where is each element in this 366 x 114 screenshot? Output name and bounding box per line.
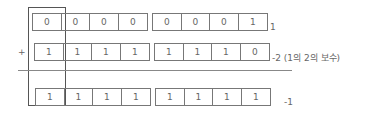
row-operand-1: 0 0 0 0 0 0 0 1: [32, 13, 268, 31]
bit-cell: 1: [93, 89, 122, 105]
bit-cell: 1: [35, 44, 64, 60]
row-result: 1 1 1 1 1 1 1 1: [35, 88, 271, 106]
bit-cell: 1: [121, 44, 150, 60]
bit-cell: 1: [184, 44, 213, 60]
bit-cell: 1: [155, 44, 184, 60]
bit-cell: 0: [182, 14, 211, 30]
row-label-operand-2: -2 (1의 2의 보수): [272, 51, 340, 64]
bit-cell: 1: [92, 44, 121, 60]
nibble-low: 1 1 1 0: [154, 43, 270, 61]
bit-cell: 0: [90, 14, 119, 30]
bit-cell: 1: [242, 89, 271, 105]
bit-cell: 1: [212, 44, 241, 60]
bit-cell: 0: [119, 14, 148, 30]
row-label-operand-1: 1: [270, 22, 276, 32]
nibble-low: 0 0 0 1: [152, 13, 268, 31]
nibble-high: 1 1 1 1: [34, 43, 150, 61]
bit-cell: 0: [33, 14, 62, 30]
bit-cell: 0: [62, 14, 91, 30]
bit-cell: 1: [36, 89, 65, 105]
bit-cell: 0: [210, 14, 239, 30]
sum-separator-line: [18, 70, 292, 71]
nibble-high: 1 1 1 1: [35, 88, 151, 106]
bit-cell: 1: [65, 89, 94, 105]
row-operand-2: 1 1 1 1 1 1 1 0: [34, 43, 270, 61]
nibble-high: 0 0 0 0: [32, 13, 148, 31]
nibble-low: 1 1 1 1: [155, 88, 271, 106]
bit-cell: 1: [156, 89, 185, 105]
bit-cell: 1: [64, 44, 93, 60]
bit-cell: 1: [213, 89, 242, 105]
bit-cell: 0: [153, 14, 182, 30]
row-label-result: -1: [284, 97, 293, 107]
plus-operator: +: [18, 47, 26, 57]
bit-cell: 1: [239, 14, 268, 30]
bit-cell: 1: [185, 89, 214, 105]
bit-cell: 1: [122, 89, 151, 105]
bit-cell: 0: [241, 44, 270, 60]
